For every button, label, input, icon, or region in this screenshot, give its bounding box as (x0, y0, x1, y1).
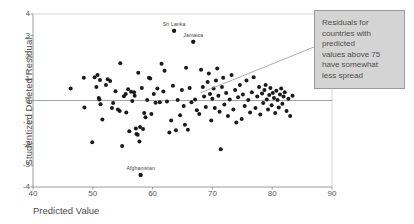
annotation-text-line: countries with (322, 29, 398, 40)
x-tick-label: 90 (317, 190, 347, 198)
annotation-text-line: predicted (322, 39, 398, 50)
x-tick-label: 80 (257, 190, 287, 198)
x-tick-label: 60 (138, 190, 168, 198)
data-point-label: Sri Lanka (163, 22, 186, 27)
data-points (69, 29, 295, 177)
scatterplot-figure: 43210-1-2-3-4 405060708090 Sri LankaJama… (0, 0, 414, 224)
data-point-label: Jamaica (183, 33, 203, 38)
axis-tick-marks (31, 14, 333, 190)
annotation-callout-box: Residuals forcountries withpredictedvalu… (314, 10, 405, 89)
annotation-text-line: Residuals for (322, 18, 398, 29)
x-axis-title: Predicted Value (33, 205, 99, 216)
annotation-text-line: less spread (322, 71, 398, 82)
x-tick-label: 70 (197, 190, 227, 198)
x-tick-label: 50 (78, 190, 108, 198)
annotation-text-line: values above 75 (322, 50, 398, 61)
y-axis-title: Studentized Deleted Residual (23, 12, 34, 192)
data-point-label: Afghanistan (126, 166, 155, 171)
annotation-text-line: have somewhat (322, 60, 398, 71)
